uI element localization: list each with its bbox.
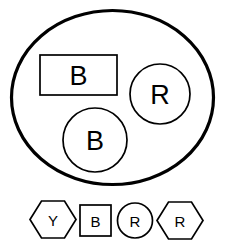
shapes-diagram: B R B Y B R R [0, 0, 226, 242]
inner-circle-r-label: R [150, 80, 170, 110]
legend-circle-r-label: R [130, 213, 141, 230]
inner-circle-b-label: B [86, 126, 104, 156]
legend-hexagon-y-label: Y [48, 212, 58, 229]
diagram-canvas: B R B Y B R R [0, 0, 226, 242]
legend-hexagon-r-label: R [175, 213, 186, 230]
inner-rectangle-b-label: B [69, 61, 87, 91]
legend-square-b-label: B [90, 213, 100, 230]
